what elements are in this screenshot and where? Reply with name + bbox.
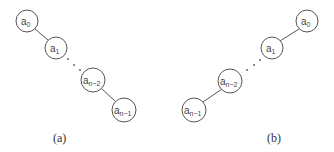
edge-an2-an1 (203, 89, 222, 102)
diagram-a: a0 a1 an−2 an−1 (a) (16, 10, 136, 145)
tree-node: an−1 (112, 98, 136, 122)
edge-a0-a1 (280, 29, 299, 41)
tree-node: an−2 (81, 68, 105, 92)
ellipsis-dot (246, 69, 248, 71)
ellipsis-dot (253, 64, 255, 66)
degenerate-trees-figure: a0 a1 an−2 an−1 (a) a0 a1 (0, 0, 334, 152)
ellipsis-dot (79, 69, 81, 71)
tree-node: an−1 (182, 98, 206, 122)
ellipsis-dot (67, 58, 69, 60)
caption-b: (b) (267, 131, 281, 145)
ellipsis-dot (73, 64, 75, 66)
tree-node: a0 (16, 10, 38, 32)
tree-node: a0 (296, 10, 318, 32)
tree-node: an−2 (218, 69, 242, 93)
caption-a: (a) (53, 131, 66, 145)
tree-node: a1 (261, 37, 283, 59)
diagram-b: a0 a1 an−2 an−1 (b) (182, 10, 318, 145)
ellipsis-dot (259, 59, 261, 61)
edge-a0-a1 (35, 29, 48, 40)
edge-an2-an1 (101, 88, 116, 102)
tree-node: a1 (45, 37, 67, 59)
